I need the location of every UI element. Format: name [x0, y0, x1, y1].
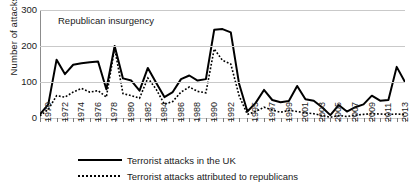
x-tick-label: 1999	[285, 102, 294, 122]
x-tick-label: 1974	[77, 102, 86, 122]
x-tick-label: 1972	[61, 102, 70, 122]
chart-container: Number of attacks 0100200300 Republican …	[0, 0, 413, 186]
gridline	[40, 82, 405, 83]
x-tick-label: 1978	[110, 102, 119, 122]
y-tick-label: 0	[11, 113, 37, 122]
x-tick-label: 1986	[177, 102, 186, 122]
chart-legend: Terrorist attacks in the UK Terrorist at…	[0, 152, 413, 184]
gridline	[40, 10, 405, 11]
x-tick-label: 1970	[44, 102, 53, 122]
x-tick-label: 1997	[268, 102, 277, 122]
legend-label-republicans: Terrorist attacks attributed to republic…	[127, 171, 298, 182]
x-tick-label: 1984	[160, 102, 169, 122]
x-tick-label: 1982	[144, 102, 153, 122]
legend-line-solid-icon	[78, 155, 122, 165]
x-tick-label: 2003	[318, 102, 327, 122]
x-tick-label: 1980	[127, 102, 136, 122]
annotation-republican-insurgency: Republican insurgency	[58, 15, 154, 26]
legend-item-uk: Terrorist attacks in the UK	[0, 152, 413, 168]
y-tick-label: 200	[11, 41, 37, 50]
x-tick-label: 2009	[368, 102, 377, 122]
legend-line-dotted-icon	[78, 171, 122, 181]
x-tick-label: 2013	[401, 102, 410, 122]
x-tick-label: 1988	[193, 102, 202, 122]
x-tick-label: 2007	[351, 102, 360, 122]
x-tick-label: 2011	[384, 103, 393, 122]
legend-item-republicans: Terrorist attacks attributed to republic…	[0, 168, 413, 184]
x-tick-label: 2005	[334, 102, 343, 122]
gridline	[40, 46, 405, 47]
x-tick-label: 2001	[301, 102, 310, 122]
x-tick-label: 1995	[251, 102, 260, 122]
x-tick-label: 1990	[210, 102, 219, 122]
y-tick-label: 300	[11, 5, 37, 14]
x-tick-label: 1976	[94, 102, 103, 122]
x-tick-label: 1992	[227, 102, 236, 122]
legend-label-uk: Terrorist attacks in the UK	[127, 155, 236, 166]
y-tick-label: 100	[11, 77, 37, 86]
x-axis-tick-labels: 1970197219741976197819801982198419861988…	[40, 122, 405, 152]
